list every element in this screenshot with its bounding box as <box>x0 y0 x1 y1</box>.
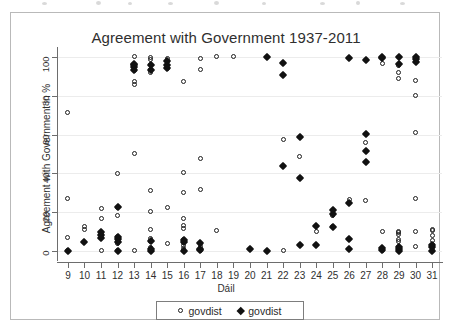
x-axis-tick <box>349 263 350 268</box>
y-axis-tick-label: 20 <box>40 212 51 246</box>
x-axis-tick <box>233 263 234 268</box>
x-axis-tick <box>184 263 185 268</box>
data-point-open-circle <box>165 205 170 210</box>
y-axis-tick-label: 40 <box>40 173 51 207</box>
y-axis-tick <box>52 251 57 252</box>
data-point-open-circle <box>214 228 219 233</box>
data-point-open-circle <box>413 93 418 98</box>
scan-blob <box>128 2 132 5</box>
x-axis-tick <box>118 263 119 268</box>
scan-blob <box>42 2 47 5</box>
data-point-open-circle <box>297 154 302 159</box>
data-point-open-circle <box>396 76 401 81</box>
y-axis-tick <box>52 96 57 97</box>
scan-blob <box>214 1 219 5</box>
data-point-open-circle <box>115 171 120 176</box>
y-axis-tick-label: 60 <box>40 134 51 168</box>
x-axis-tick <box>68 263 69 268</box>
data-point-filled-diamond <box>262 53 270 61</box>
x-axis-tick <box>101 263 102 268</box>
data-point-filled-diamond <box>312 241 320 249</box>
scan-blob <box>96 1 101 5</box>
data-point-filled-diamond <box>362 158 370 166</box>
x-axis-tick-label: 31 <box>422 270 442 281</box>
x-axis-tick <box>416 263 417 268</box>
data-point-filled-diamond <box>295 241 303 249</box>
data-point-filled-diamond <box>362 147 370 155</box>
data-point-open-circle <box>413 78 418 83</box>
data-point-filled-diamond <box>295 173 303 181</box>
x-axis-tick <box>316 263 317 268</box>
chart-legend: govdist govdist <box>156 301 304 320</box>
x-axis-tick <box>267 263 268 268</box>
x-axis-tick <box>84 263 85 268</box>
gridline <box>58 96 442 97</box>
data-point-open-circle <box>99 206 104 211</box>
data-point-open-circle <box>363 198 368 203</box>
data-point-filled-diamond <box>262 247 270 255</box>
data-point-filled-diamond <box>345 235 353 243</box>
data-point-filled-diamond <box>345 54 353 62</box>
data-point-open-circle <box>165 241 170 246</box>
data-point-open-circle <box>281 248 286 253</box>
data-point-open-circle <box>148 188 153 193</box>
scan-blob <box>400 2 405 5</box>
data-point-filled-diamond <box>362 130 370 138</box>
x-axis-tick <box>366 263 367 268</box>
data-point-open-circle <box>214 54 219 59</box>
data-point-open-circle <box>132 54 137 59</box>
data-point-open-circle <box>281 137 286 142</box>
x-axis-title: Dáil <box>11 283 441 294</box>
y-axis-tick-label: 0 <box>40 251 51 285</box>
plot-area <box>58 49 442 259</box>
scan-blob <box>356 1 360 5</box>
data-point-open-circle <box>65 235 70 240</box>
legend-item-govdist-circle: govdist <box>178 305 221 317</box>
data-point-open-circle <box>363 140 368 145</box>
y-axis-tick <box>52 57 57 58</box>
legend-label-diamond: govdist <box>248 305 281 317</box>
data-point-open-circle <box>181 79 186 84</box>
data-point-open-circle <box>198 56 203 61</box>
data-point-open-circle <box>413 229 418 234</box>
data-point-open-circle <box>430 227 435 232</box>
y-axis-tick-label: 100 <box>40 56 51 90</box>
y-axis-tick-label: 80 <box>40 95 51 129</box>
data-point-open-circle <box>198 187 203 192</box>
data-point-open-circle <box>99 216 104 221</box>
data-point-open-circle <box>82 224 87 229</box>
data-point-open-circle <box>99 248 104 253</box>
x-axis-tick <box>333 263 334 268</box>
x-axis-tick <box>200 263 201 268</box>
data-point-open-circle <box>65 196 70 201</box>
x-axis-tick <box>399 263 400 268</box>
data-point-open-circle <box>181 190 186 195</box>
data-point-open-circle <box>413 196 418 201</box>
filled-diamond-marker-icon <box>237 307 245 315</box>
x-axis-tick <box>217 263 218 268</box>
data-point-filled-diamond <box>64 247 72 255</box>
data-point-filled-diamond <box>113 247 121 255</box>
data-point-open-circle <box>413 130 418 135</box>
legend-label-circle: govdist <box>188 305 221 317</box>
data-point-open-circle <box>65 110 70 115</box>
scan-blob <box>262 2 266 5</box>
data-point-open-circle <box>231 54 236 59</box>
x-axis-tick <box>167 263 168 268</box>
x-axis-tick <box>283 263 284 268</box>
open-circle-marker-icon <box>178 308 183 313</box>
y-axis-tick <box>52 135 57 136</box>
data-point-filled-diamond <box>312 222 320 230</box>
data-point-filled-diamond <box>80 237 88 245</box>
data-point-open-circle <box>430 233 435 238</box>
data-point-open-circle <box>132 248 137 253</box>
data-point-open-circle <box>132 79 137 84</box>
y-axis-tick <box>52 173 57 174</box>
data-point-open-circle <box>132 151 137 156</box>
data-point-open-circle <box>396 70 401 75</box>
data-point-open-circle <box>198 156 203 161</box>
data-point-open-circle <box>413 244 418 249</box>
data-point-filled-diamond <box>113 203 121 211</box>
data-point-open-circle <box>181 216 186 221</box>
data-point-filled-diamond <box>279 59 287 67</box>
